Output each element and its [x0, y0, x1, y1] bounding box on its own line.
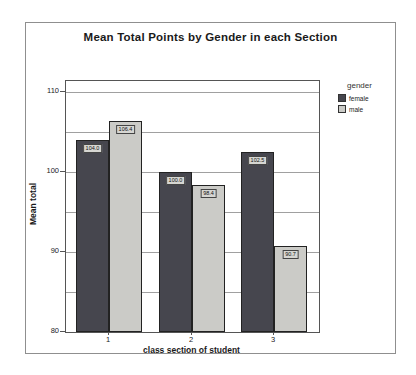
gridline [66, 132, 319, 133]
legend-item-label: male [349, 106, 363, 113]
x-tick-label: 1 [98, 335, 118, 344]
y-tick-label: 100 [33, 166, 59, 176]
y-tick-mark [60, 251, 65, 252]
chart-title: Mean Total Points by Gender in each Sect… [26, 31, 395, 43]
bar-value-label: 106.4 [116, 125, 136, 134]
y-axis-title: Mean total [28, 169, 38, 239]
x-tick-label: 3 [263, 335, 283, 344]
x-axis-title: class section of student [65, 345, 318, 354]
bar-male-section-3: 90.7 [274, 246, 307, 332]
y-tick-label: 80 [33, 326, 59, 336]
bar-value-label: 102.5 [248, 156, 268, 165]
y-tick-mark [60, 91, 65, 92]
legend-item-male: male [338, 105, 396, 113]
legend: gender female male [338, 81, 396, 116]
y-tick-mark [60, 171, 65, 172]
female-color-swatch [338, 94, 346, 102]
bar-female-section-2: 100.0 [159, 172, 192, 332]
y-tick-mark [60, 331, 65, 332]
x-tick-label: 2 [181, 335, 201, 344]
bar-male-section-1: 106.4 [109, 121, 142, 332]
y-tick-label: 90 [33, 246, 59, 256]
gridline [66, 92, 319, 93]
bar-value-label: 90.7 [282, 250, 299, 259]
legend-item-female: female [338, 94, 396, 102]
bar-female-section-3: 102.5 [241, 152, 274, 332]
bar-male-section-2: 98.4 [192, 185, 225, 332]
bar-value-label: 100.0 [166, 176, 186, 185]
legend-item-label: female [349, 95, 369, 102]
legend-title: gender [347, 81, 396, 90]
male-color-swatch [338, 105, 346, 113]
bar-female-section-1: 104.0 [76, 140, 109, 332]
bar-value-label: 98.4 [200, 189, 217, 198]
chart-frame: Mean Total Points by Gender in each Sect… [25, 22, 396, 354]
plot-area: 104.0106.4100.098.4102.590.7 [65, 80, 320, 333]
y-tick-label: 110 [33, 86, 59, 96]
bar-value-label: 104.0 [83, 144, 103, 153]
